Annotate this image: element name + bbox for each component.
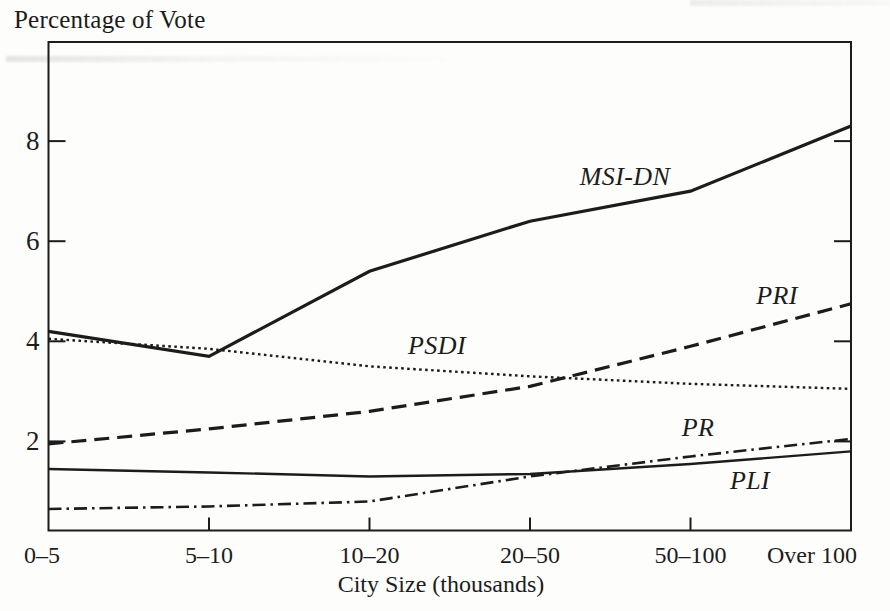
y-tick-label: 2 — [26, 426, 40, 456]
x-tick-label: Over 100 — [767, 542, 857, 568]
plot-border — [49, 42, 852, 531]
x-tick-label: 20–50 — [500, 542, 560, 568]
x-tick-label: 50–100 — [655, 542, 727, 568]
series-line-pri — [49, 304, 852, 444]
x-axis-label: City Size (thousands) — [338, 571, 545, 597]
series-line-msi-dn — [49, 126, 852, 356]
y-tick-label: 6 — [26, 226, 40, 256]
x-tick-label: 10–20 — [340, 542, 400, 568]
series-label-pr: PR — [681, 413, 715, 442]
series-label-psdi: PSDI — [407, 331, 467, 360]
series-label-pri: PRI — [755, 281, 799, 310]
x-tick-label: 0–5 — [24, 542, 60, 568]
x-tick-label: 5–10 — [185, 542, 233, 568]
y-tick-label: 8 — [26, 126, 40, 156]
series-label-msi-dn: MSI-DN — [579, 162, 672, 191]
y-tick-label: 4 — [26, 326, 40, 356]
series-label-pli: PLI — [729, 466, 771, 495]
